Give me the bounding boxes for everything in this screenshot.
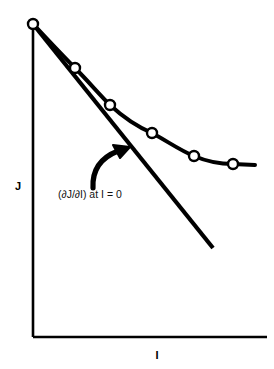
- data-point-marker: [105, 100, 115, 110]
- figure-container: J I (∂J/∂I) at I = 0: [0, 0, 274, 369]
- y-axis-label: J: [15, 180, 21, 192]
- plot-svg: J I (∂J/∂I) at I = 0: [0, 0, 274, 369]
- data-point-marker: [28, 19, 38, 29]
- data-curve: [33, 24, 255, 165]
- data-point-marker: [70, 63, 80, 73]
- data-point-marker: [147, 128, 157, 138]
- data-point-marker: [189, 151, 199, 161]
- x-axis-label: I: [155, 349, 158, 361]
- tangent-line: [33, 24, 213, 248]
- annotation-arrow-icon: [93, 145, 130, 188]
- data-point-marker: [228, 159, 238, 169]
- annotation-label: (∂J/∂I) at I = 0: [58, 188, 122, 200]
